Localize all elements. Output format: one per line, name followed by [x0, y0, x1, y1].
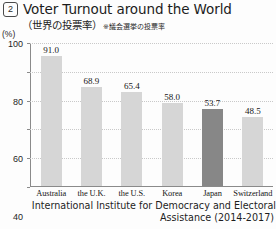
y-axis-tick: 100 [27, 43, 30, 44]
x-axis-label: Switzerland [233, 189, 273, 198]
subtitle-footnote: ※議会選挙の投票率 [103, 21, 165, 31]
bar-switzerland[interactable] [242, 117, 263, 186]
bar-value-label: 65.4 [124, 81, 140, 91]
bar-value-label: 48.5 [245, 106, 261, 116]
bar-value-label: 91.0 [43, 45, 59, 55]
y-axis-tick-label: 40 [13, 212, 23, 222]
x-axis-label: Japan [192, 189, 232, 198]
x-axis-label: Australia [31, 189, 71, 198]
bar-slot: 48.5 [233, 43, 273, 186]
bar-the-u-k[interactable] [81, 87, 102, 186]
page-title: Voter Turnout around the World [23, 1, 232, 17]
source-line-1: International Institute for Democracy an… [30, 200, 276, 212]
x-axis-label: the U.K. [71, 189, 111, 198]
y-axis-unit-label: (%) [2, 29, 15, 39]
figure-header: 2 Voter Turnout around the World [3, 1, 232, 17]
bar-slot: 68.9 [71, 43, 111, 186]
subtitle-japanese: （世界の投票率） [22, 17, 102, 32]
y-axis-tick: 20 [27, 158, 30, 159]
bar-value-label: 68.9 [84, 76, 100, 86]
bar-japan[interactable] [202, 109, 223, 186]
y-axis-tick-label: 60 [13, 154, 23, 164]
bar-slot: 65.4 [112, 43, 152, 186]
y-axis-tick: 60 [27, 101, 30, 102]
bar-value-label: 58.0 [164, 92, 180, 102]
source-citation: International Institute for Democracy an… [30, 200, 276, 224]
bar-australia[interactable] [41, 56, 62, 186]
bar-slot: 91.0 [31, 43, 71, 186]
bar-slot: 58.0 [152, 43, 192, 186]
source-line-2: Assistance (2014-2017) [30, 212, 276, 224]
y-axis-tick: 0 [27, 187, 30, 188]
bar-the-u-s[interactable] [121, 92, 142, 186]
plot-area: 020406080100 91.068.965.458.053.748.5 [30, 43, 273, 187]
y-axis-tick-label: 80 [13, 97, 23, 107]
y-axis-tick-label: 100 [8, 39, 23, 49]
figure-subtitle: （世界の投票率） ※議会選挙の投票率 [22, 17, 165, 32]
x-axis-labels: Australiathe U.K.the U.S.KoreaJapanSwitz… [31, 189, 273, 198]
x-axis-label: Korea [152, 189, 192, 198]
bar-group: 91.068.965.458.053.748.5 [31, 43, 273, 186]
chart-figure: 2 Voter Turnout around the World （世界の投票率… [0, 0, 276, 229]
bar-value-label: 53.7 [205, 98, 221, 108]
bar-slot: 53.7 [192, 43, 232, 186]
y-axis-tick: 80 [27, 72, 30, 73]
figure-number-badge: 2 [3, 2, 18, 17]
x-axis-label: the U.S. [112, 189, 152, 198]
bar-korea[interactable] [162, 103, 183, 186]
x-axis-line [30, 186, 273, 187]
y-axis-tick: 40 [27, 129, 30, 130]
